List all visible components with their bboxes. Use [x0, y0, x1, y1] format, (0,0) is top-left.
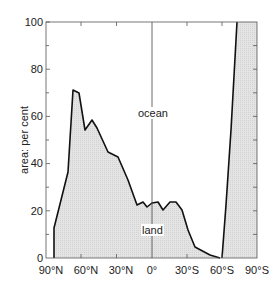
x-tick-30s: 30°S [167, 264, 207, 276]
x-tick-60n: 60°N [66, 264, 106, 276]
x-tick-90s: 90°S [237, 264, 277, 276]
x-tick-0: 0° [132, 264, 172, 276]
y-tick-80: 80 [3, 63, 43, 75]
y-tick-0: 0 [3, 252, 43, 264]
x-tick-60s: 60°S [202, 264, 242, 276]
land-label: land [141, 224, 164, 236]
x-tick-90n: 90°N [31, 264, 71, 276]
y-ticks-left [46, 22, 50, 234]
y-tick-100: 100 [3, 16, 43, 28]
y-tick-20: 20 [3, 205, 43, 217]
y-axis-label: area: per cent [18, 90, 30, 190]
land-area-south [222, 22, 257, 258]
ocean-label: ocean [137, 107, 169, 119]
chart-plot [0, 0, 280, 292]
